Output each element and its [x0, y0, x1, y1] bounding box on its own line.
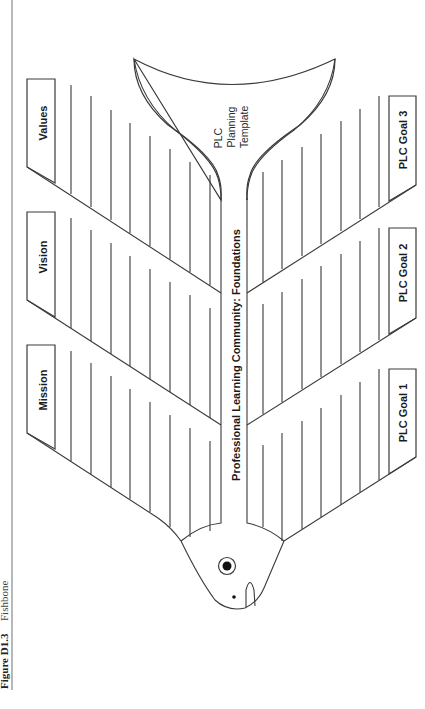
label-mission: Mission	[37, 369, 49, 410]
tail-label-line-2: Planning	[225, 106, 237, 147]
label-values: Values	[37, 106, 49, 141]
fishbone-diagram: Figure D1.3 Fishbone PLC Planning Templa…	[0, 0, 425, 709]
label-plc-goal-3: PLC Goal 3	[397, 111, 409, 170]
tail-label-line-1: PLC	[212, 127, 224, 148]
branch-plc-goal-1: PLC Goal 1	[263, 369, 416, 541]
branch-vision: Vision	[27, 212, 221, 425]
mouth-icon	[246, 583, 255, 608]
tail-label-line-3: Template	[238, 106, 250, 149]
eye-pupil	[223, 562, 232, 571]
gill-right	[247, 503, 284, 541]
branch-mission: Mission	[27, 345, 210, 541]
nostril-dot	[232, 595, 236, 599]
head-outline	[181, 541, 284, 609]
label-vision: Vision	[37, 240, 49, 273]
diagonal-bone	[27, 433, 181, 541]
diagonal-bone	[284, 457, 416, 541]
label-plc-goal-1: PLC Goal 1	[397, 384, 409, 443]
figure-caption: Figure D1.3 Fishbone	[0, 581, 10, 689]
figure-label: Figure D1.3	[0, 633, 10, 689]
figure-title: Fishbone	[0, 581, 10, 621]
diagonal-bone	[27, 167, 221, 293]
fish-head	[181, 503, 284, 609]
diagonal-bone	[27, 300, 221, 425]
label-plc-goal-2: PLC Goal 2	[397, 244, 409, 303]
gill-left	[181, 503, 221, 541]
spine-label: Professional Learning Community: Foundat…	[230, 229, 242, 481]
